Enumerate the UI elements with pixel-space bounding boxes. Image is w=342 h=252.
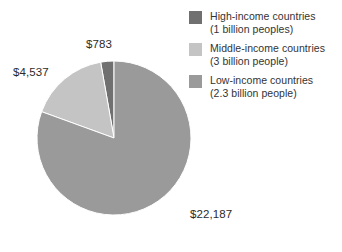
legend-swatch-icon — [189, 43, 202, 56]
legend-item-sublabel: (1 billion peoples) — [210, 23, 316, 36]
legend-swatch-icon — [189, 75, 202, 88]
legend-item-sublabel: (2.3 billion people) — [210, 87, 313, 100]
pie-slice-group — [37, 61, 191, 215]
chart-legend: High-income countries(1 billion peoples)… — [189, 10, 339, 107]
legend-item-middle-income-countries[interactable]: Middle-income countries(3 billion people… — [189, 42, 339, 67]
pie-chart-figure: $783 $4,537 $22,187 High-income countrie… — [0, 0, 342, 252]
legend-swatch-icon — [189, 11, 202, 24]
legend-item-label: Middle-income countries — [210, 42, 325, 55]
slice-value-label-middle-income: $4,537 — [13, 66, 49, 78]
slice-value-label-high-income: $783 — [86, 38, 112, 50]
legend-item-text: Middle-income countries(3 billion people… — [210, 42, 325, 67]
legend-item-text: Low-income countries(2.3 billion people) — [210, 74, 313, 99]
pie-chart-plot-area: $783 $4,537 $22,187 — [0, 0, 210, 252]
legend-item-low-income-countries[interactable]: Low-income countries(2.3 billion people) — [189, 74, 339, 99]
legend-item-text: High-income countries(1 billion peoples) — [210, 10, 316, 35]
legend-item-label: Low-income countries — [210, 74, 313, 87]
legend-item-sublabel: (3 billion people) — [210, 55, 325, 68]
legend-item-high-income-countries[interactable]: High-income countries(1 billion peoples) — [189, 10, 339, 35]
slice-value-label-low-income: $22,187 — [190, 208, 232, 220]
legend-item-label: High-income countries — [210, 10, 316, 23]
